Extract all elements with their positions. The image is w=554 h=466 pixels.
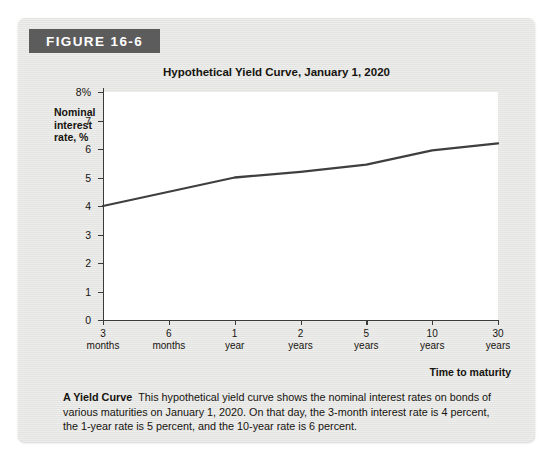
y-axis-title: Nominal interest rate, % (54, 106, 110, 144)
x-tick-label-line-2: years (486, 340, 510, 352)
x-tick-label-6-months: 6months (152, 328, 185, 351)
y-tick-label-6: 6 (85, 143, 91, 155)
yield-curve-plot (103, 92, 498, 320)
plot-region: 012345678% 3months6months1year2years5yea… (103, 92, 515, 324)
x-tick-label-line-1: 1 (225, 328, 244, 340)
x-tick-label-5-years: 5years (354, 328, 378, 351)
y-tick-label-0: 0 (85, 314, 91, 326)
x-tick-label-30-years: 30years (486, 328, 510, 351)
x-tick-label-line-2: years (420, 340, 444, 352)
y-tick-label-2: 2 (85, 257, 91, 269)
chart-title: Hypothetical Yield Curve, January 1, 202… (18, 66, 535, 78)
y-axis-title-line-3: rate, % (54, 131, 110, 144)
x-tick-6-months (169, 320, 170, 325)
x-tick-label-line-2: years (288, 340, 312, 352)
x-tick-label-2-years: 2years (288, 328, 312, 351)
figure-number-label: FIGURE 16-6 (46, 34, 143, 49)
x-tick-label-line-1: 10 (420, 328, 444, 340)
x-tick-5-years (366, 320, 367, 325)
x-tick-label-line-2: years (354, 340, 378, 352)
x-tick-label-line-2: months (152, 340, 185, 352)
y-tick-label-4: 4 (85, 200, 91, 212)
x-tick-10-years (432, 320, 433, 325)
x-tick-label-line-1: 3 (87, 328, 120, 340)
x-axis-title: Time to maturity (430, 366, 512, 378)
x-tick-label-line-1: 30 (486, 328, 510, 340)
y-tick-label-3: 3 (85, 229, 91, 241)
y-axis-title-line-1: Nominal (54, 106, 110, 119)
x-tick-2-years (301, 320, 302, 325)
x-tick-3-months (103, 320, 104, 325)
x-tick-label-1-year: 1year (225, 328, 244, 351)
y-tick-label-1: 1 (85, 286, 91, 298)
x-tick-label-line-2: months (87, 340, 120, 352)
caption-lead: A Yield Curve (63, 391, 132, 403)
x-tick-label-line-1: 6 (152, 328, 185, 340)
x-tick-label-line-1: 5 (354, 328, 378, 340)
x-tick-label-line-2: year (225, 340, 244, 352)
figure-card: FIGURE 16-6 Hypothetical Yield Curve, Ja… (18, 18, 535, 442)
x-tick-label-line-1: 2 (288, 328, 312, 340)
x-tick-30-years (498, 320, 499, 325)
figure-caption: A Yield Curve This hypothetical yield cu… (63, 390, 507, 434)
figure-number-banner: FIGURE 16-6 (29, 29, 160, 53)
x-tick-label-10-years: 10years (420, 328, 444, 351)
y-tick-label-8%: 8% (76, 86, 91, 98)
yield-curve-line (103, 143, 498, 206)
x-tick-label-3-months: 3months (87, 328, 120, 351)
y-axis-title-line-2: interest (54, 119, 110, 132)
x-tick-1-year (235, 320, 236, 325)
y-tick-label-5: 5 (85, 172, 91, 184)
